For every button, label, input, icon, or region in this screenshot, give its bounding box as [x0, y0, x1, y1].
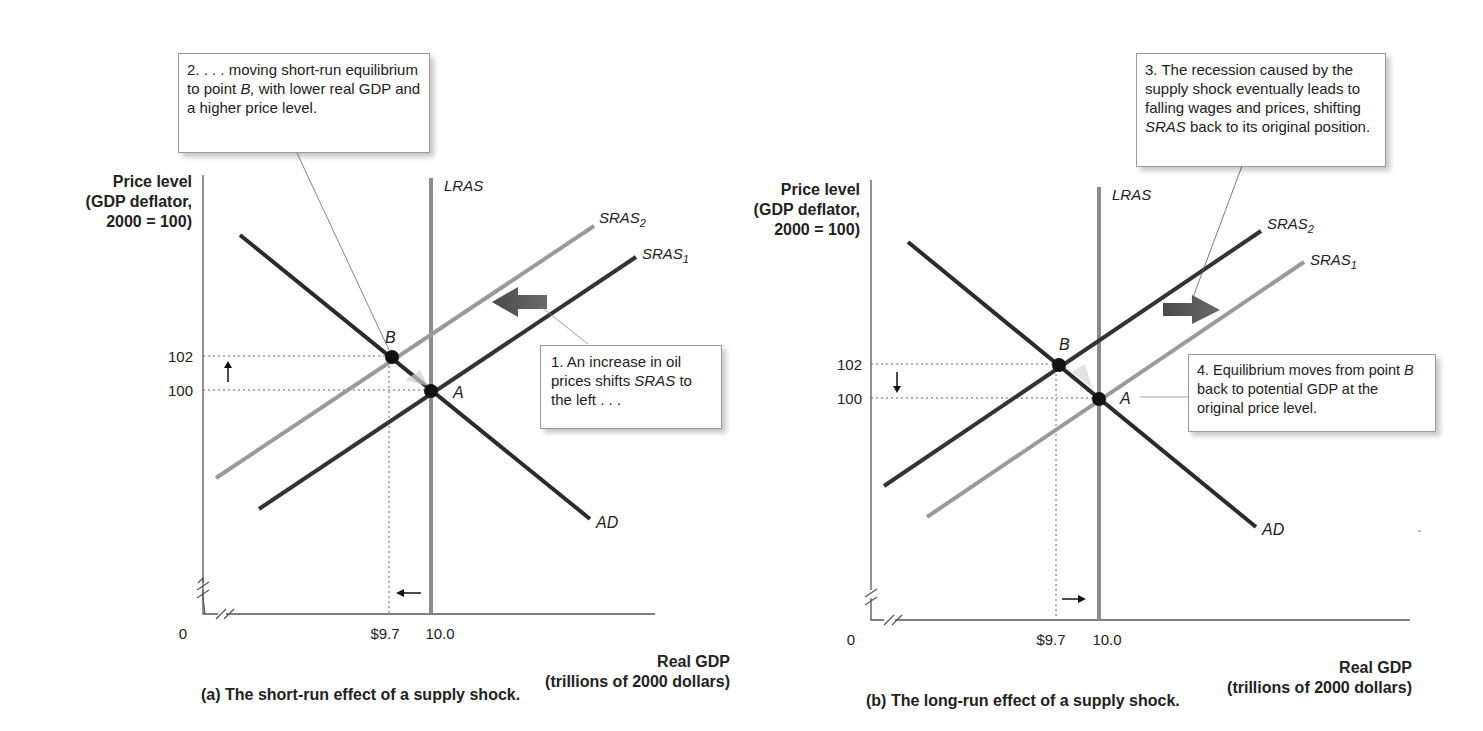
- label-sras2-a: SRAS2: [599, 209, 646, 229]
- point-a-a: [424, 384, 438, 398]
- x-axis-title-b: Real GDP (trillions of 2000 dollars): [1160, 658, 1412, 698]
- point-a-b: [1092, 392, 1106, 406]
- label-b-a: B: [385, 329, 396, 346]
- tick-0-a: 0: [179, 625, 187, 642]
- label-ad-b: AD: [1261, 521, 1285, 538]
- tick-102-b: 102: [837, 356, 862, 373]
- tick-102-a: 102: [168, 348, 193, 365]
- tick-97-b: $9.7: [1036, 631, 1065, 648]
- callout-1: 1. An increase in oil prices shifts SRAS…: [540, 345, 722, 429]
- label-a-a: A: [452, 384, 464, 401]
- shift-right-arrow-b: [1163, 295, 1220, 324]
- tick-0-b: 0: [847, 631, 855, 648]
- callout-4: 4. Equilibrium moves from point B back t…: [1188, 354, 1436, 432]
- label-sras1-a: SRAS1: [642, 245, 689, 265]
- leader-callout3: [1192, 166, 1242, 300]
- tick-10-a: 10.0: [425, 625, 454, 642]
- label-lras-a: LRAS: [444, 177, 483, 194]
- label-ad-a: AD: [595, 514, 619, 531]
- shift-left-arrow-a: [492, 287, 547, 317]
- point-b-b: [1052, 358, 1066, 372]
- y-axis-title-a: Price level (GDP deflator, 2000 = 100): [40, 172, 192, 232]
- tick-100-a: 100: [168, 382, 193, 399]
- callout-2: 2. . . . moving short-run equilibrium to…: [178, 53, 430, 153]
- x-axis-break-b: [884, 615, 894, 625]
- y-axis-break-b: [865, 589, 877, 597]
- tick-97-a: $9.7: [370, 625, 399, 642]
- point-b-a: [385, 350, 399, 364]
- label-a-b: A: [1119, 390, 1131, 407]
- label-lras-b: LRAS: [1112, 186, 1151, 203]
- leader-callout1: [540, 306, 588, 344]
- caption-b: (b) The long-run effect of a supply shoc…: [866, 692, 1180, 710]
- y-axis-title-b: Price level (GDP deflator, 2000 = 100): [708, 180, 860, 240]
- label-b-b: B: [1059, 336, 1070, 353]
- label-sras1-b: SRAS1: [1310, 251, 1357, 271]
- tick-10-b: 10.0: [1092, 631, 1121, 648]
- caption-a: (a) The short-run effect of a supply sho…: [201, 686, 520, 704]
- label-sras2-b: SRAS2: [1267, 215, 1314, 235]
- callout-3: 3. The recession caused by the supply sh…: [1136, 53, 1386, 167]
- tick-100-b: 100: [837, 390, 862, 407]
